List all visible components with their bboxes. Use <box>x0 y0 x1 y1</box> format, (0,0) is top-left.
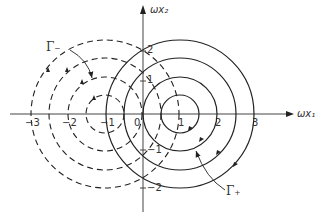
x-tick-label: −3 <box>25 118 40 128</box>
gamma-plus-label: Γ₊ <box>226 185 241 197</box>
direction-arrows-dashed <box>46 67 96 100</box>
direction-arrows-solid <box>188 126 238 167</box>
x-axis-label: ωx₁ <box>297 109 315 119</box>
y-tick-label: −2 <box>147 183 162 193</box>
gamma-minus-label: Γ₋ <box>46 41 61 53</box>
x-axis-arrow-icon <box>286 111 294 117</box>
x-tick-label: 0 <box>134 118 140 128</box>
x-tick-label: −1 <box>100 118 115 128</box>
x-tick-label: 1 <box>178 118 184 128</box>
gamma-plus-leader <box>196 151 225 190</box>
y-axis-label: ωx₂ <box>150 5 168 15</box>
y-tick-label: 2 <box>147 45 153 55</box>
x-tick-label: −2 <box>62 118 77 128</box>
gamma-minus-leader <box>70 50 92 78</box>
y-axis-arrow-icon <box>140 5 146 14</box>
x-tick-label: 2 <box>215 118 221 128</box>
y-tick-label: −1 <box>147 145 162 155</box>
x-tick-label: 3 <box>252 118 258 128</box>
y-tick-label: 1 <box>147 75 153 85</box>
